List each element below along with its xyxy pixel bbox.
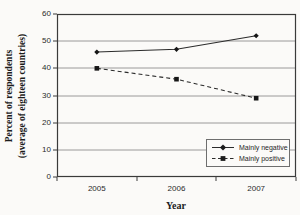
x-tick-label: 2007 — [236, 184, 276, 194]
legend-label-negative: Mainly negative — [239, 144, 288, 151]
negative-series-swatch-icon — [211, 143, 235, 152]
legend-row-positive: Mainly positive — [211, 153, 286, 164]
x-axis-title: Year — [146, 200, 206, 211]
data-point-marker — [174, 77, 179, 82]
y-tick-label: 60 — [27, 9, 51, 19]
data-point-marker — [94, 49, 99, 54]
positive-series-swatch-icon — [211, 154, 235, 163]
y-tick-label: 10 — [27, 145, 51, 155]
data-point-marker — [174, 47, 179, 52]
y-tick-label: 30 — [27, 91, 51, 101]
x-tick-label: 2005 — [77, 184, 117, 194]
y-tick-label: 0 — [27, 172, 51, 182]
x-tick-label: 2006 — [157, 184, 197, 194]
series-line-mainly-positive — [97, 68, 256, 98]
legend-row-negative: Mainly negative — [211, 142, 286, 153]
y-tick-label: 50 — [27, 36, 51, 46]
chart-figure: Percent of respondents (average of eight… — [0, 0, 300, 215]
data-point-marker — [95, 66, 100, 71]
y-tick-label: 20 — [27, 118, 51, 128]
legend: Mainly negative Mainly positive — [206, 139, 290, 167]
data-point-marker — [254, 33, 259, 38]
legend-label-positive: Mainly positive — [239, 155, 285, 162]
y-tick-label: 40 — [27, 63, 51, 73]
chart-canvas — [0, 0, 300, 215]
data-point-marker — [254, 96, 259, 101]
